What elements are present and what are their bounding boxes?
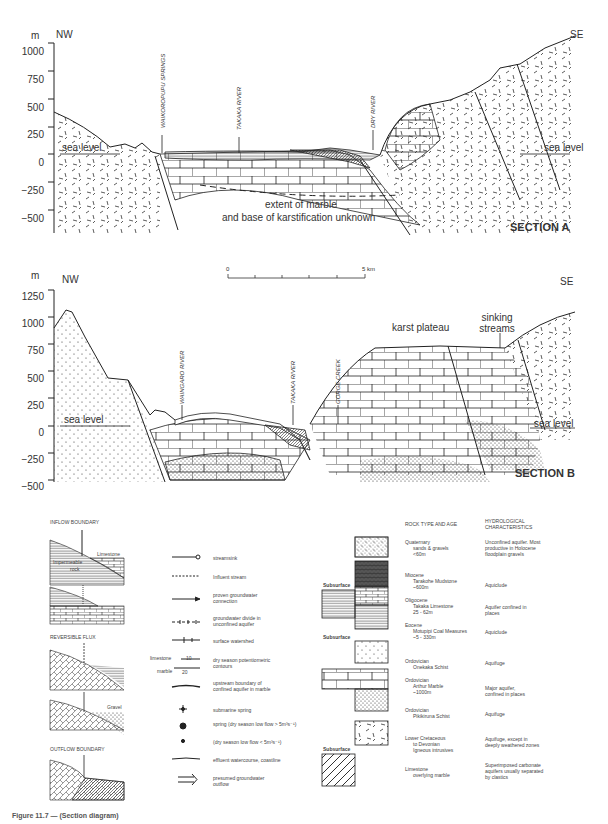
y-tick: 0 (10, 149, 44, 177)
contour-value-10: 10 (186, 655, 192, 661)
symbol-label: groundwater divide in unconfined aquifer (213, 615, 278, 627)
section-a-se-label: SE (570, 29, 583, 40)
figure-caption: Figure 11.7 — (Section diagram) (12, 812, 119, 819)
inflow-boundary-label: INFLOW BOUNDARY (50, 519, 99, 525)
scale-start: 0 (226, 266, 229, 272)
rock-row: OrdovicianArthur Marble~1000m (405, 677, 480, 696)
label-takaka-river-a: TAKAKA RIVER (236, 87, 242, 130)
surface-watershed-icon (172, 637, 200, 643)
label-takaka-river-b: TAKAKA RIVER (290, 361, 296, 404)
scale-end: 5 km (362, 266, 375, 272)
y-tick: 750 (10, 66, 44, 94)
y-tick: 500 (10, 94, 44, 122)
note-marble-1: extent of marble (265, 199, 337, 210)
label-waikoropupu-springs: WAIKOROPUPU SPRINGS (160, 54, 166, 128)
rock-row: MioceneTarakohe Mudstone~600m (405, 572, 480, 591)
y-tick: 250 (10, 392, 44, 419)
label-gorge-creek: GORGE CREEK (335, 359, 341, 404)
y-tick: −500 (10, 205, 44, 233)
section-b-title: SECTION B (515, 467, 575, 479)
subsurface-label: Subsurface (323, 746, 350, 752)
sea-level-b-left: sea level (64, 414, 103, 425)
rock-row: OrdovicianPikikiruna Schist (405, 707, 480, 719)
reversible-flux-label: REVERSIBLE FLUX (50, 634, 96, 640)
rock-row: Quaternarysands & gravels<60m (405, 539, 480, 558)
gravel-label: Gravel (107, 704, 122, 710)
symbol-label: presumed groundwater outflow (213, 775, 281, 787)
impermeable-label: Impermeable (53, 559, 82, 565)
arrow-right-icon (172, 597, 200, 601)
y-tick: −500 (10, 473, 44, 500)
y-tick: 0 (10, 419, 44, 446)
symbol-label: streamsink (213, 555, 237, 561)
rock-row: Lower Cretaceousto DevonianIgneous intru… (405, 735, 480, 754)
sinking-line-2: streams (472, 323, 522, 334)
label-waingaro-river: WAINGARO RIVER (179, 351, 185, 404)
symbol-label: effluent watercourse, coastline (213, 757, 280, 763)
rock-row: OligoceneTakaka Limestone25 - 62m (405, 597, 480, 616)
hydro-header: HYDROLOGICAL CHARACTERISTICS (485, 518, 532, 530)
note-marble-2: and base of karstification unknown (222, 212, 375, 223)
label-dry-river: DRY RIVER (370, 96, 376, 128)
section-b-y-unit: m (31, 270, 39, 281)
boundary-diagrams (50, 530, 124, 800)
y-tick: 1250 (10, 283, 44, 310)
section-a-title: SECTION A (510, 221, 570, 233)
section-a-nw-label: NW (56, 29, 73, 40)
rock-row: OrdovicianOnekaka Schist (405, 658, 480, 670)
hydro-cell: Aquiclude (485, 629, 507, 635)
y-tick: 500 (10, 365, 44, 392)
symbol-label: dry season potentiometric contours (213, 657, 283, 669)
rock-row: EoceneMotupipi Coal Measures~5 - 330m (405, 622, 485, 641)
hydro-cell: Unconfined aquifer. Most productive in H… (485, 539, 555, 558)
section-b-y-axis: 1250 1000 750 500 250 0 −250 −500 (10, 283, 44, 501)
groundwater-divide-icon (172, 620, 200, 624)
hydro-cell: Aquifuge (485, 711, 505, 717)
symbol-label: upstream boundary of confined aquifer in… (213, 680, 281, 692)
double-arrow-icon (178, 774, 197, 785)
sea-level-b-right: sea level (534, 418, 573, 429)
subsurface-label: Subsurface (323, 634, 350, 640)
outflow-boundary-label: OUTFLOW BOUNDARY (50, 746, 105, 752)
symbol-label: Influent stream (213, 574, 246, 580)
hydro-cell: Superimposed carbonate aquifers usually … (485, 762, 545, 781)
upstream-boundary-icon (172, 686, 200, 688)
label-sinking-streams: sinking streams (472, 312, 522, 334)
contour-marble-label: marble (157, 668, 172, 674)
symbol-label: proven groundwater connection (213, 592, 278, 604)
y-tick: −250 (10, 177, 44, 205)
limestone-label: Limestone (97, 551, 120, 557)
symbol-label: (dry season low flow < 5m³s⁻¹) (213, 739, 281, 745)
hydro-header-2: CHARACTERISTICS (485, 524, 532, 530)
section-b-se-label: SE (560, 276, 573, 287)
symbol-label: spring (dry season low flow > 5m³s⁻¹) (213, 721, 308, 727)
symbol-label: surface watershed (213, 638, 254, 644)
submarine-spring-icon (179, 705, 187, 713)
y-tick: 750 (10, 337, 44, 364)
y-tick: 1000 (10, 310, 44, 337)
sea-level-a-left: sea level (62, 142, 101, 153)
streamsink-icon (172, 555, 200, 559)
y-tick: 1000 (10, 38, 44, 66)
cross-section-diagram (0, 0, 608, 824)
hydro-cell: Major aquifer, confined in places (485, 685, 530, 697)
sinking-line-1: sinking (472, 312, 522, 323)
y-tick: −250 (10, 446, 44, 473)
y-tick: 250 (10, 121, 44, 149)
hydro-cell: Aquifer confined in places (485, 604, 535, 616)
section-a-y-axis: 1000 750 500 250 0 −250 −500 (10, 38, 44, 233)
section-b-nw-label: NW (62, 274, 79, 285)
hydro-cell: Aquifuge, except in deeply weathered zon… (485, 736, 540, 748)
spring-large-icon (180, 723, 186, 729)
rock-label: rock (70, 566, 79, 572)
section-b (48, 274, 575, 482)
symbol-label: submarine spring (213, 707, 251, 713)
contour-value-20: 20 (182, 669, 188, 675)
label-karst-plateau: karst plateau (392, 322, 449, 333)
hydro-cell: Aquiclude (485, 582, 507, 588)
rock-row: Limestoneoverlying marble (405, 766, 480, 778)
sea-level-a-right: sea level (544, 142, 583, 153)
contour-limestone-label: limestone (150, 655, 171, 661)
rock-type-header: ROCK TYPE AND AGE (405, 521, 457, 527)
subsurface-label: Subsurface (323, 582, 350, 588)
